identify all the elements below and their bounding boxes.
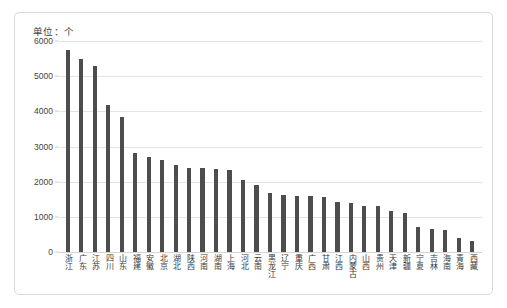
x-label-slot: 北京 [155, 254, 168, 308]
bar [457, 238, 461, 252]
bar-slot [74, 41, 87, 252]
x-label-slot: 甘肃 [317, 254, 330, 308]
bar-series [58, 41, 482, 252]
bar-slot [263, 41, 276, 252]
bar-slot [209, 41, 222, 252]
x-label-slot: 西藏 [466, 254, 479, 308]
bar [430, 229, 434, 252]
bar-slot [196, 41, 209, 252]
bar-slot [425, 41, 438, 252]
bar-slot [101, 41, 114, 252]
bar [376, 206, 380, 252]
bar [349, 203, 353, 252]
bar [335, 202, 339, 252]
x-label-slot: 福建 [128, 254, 141, 308]
x-axis-label: 甘肃 [320, 254, 328, 270]
x-axis-label: 广西 [306, 254, 314, 270]
x-label-slot: 河北 [236, 254, 249, 308]
bar [79, 59, 83, 252]
bar-slot [412, 41, 425, 252]
y-tick-label: 5000 [34, 71, 53, 81]
bar [389, 211, 393, 252]
x-axis-label: 贵州 [374, 254, 382, 270]
x-label-slot: 四川 [101, 254, 114, 308]
bar [106, 105, 110, 252]
y-tick-label: 3000 [34, 142, 53, 152]
x-label-slot: 江西 [331, 254, 344, 308]
bar [187, 168, 191, 252]
x-axis-label: 云南 [252, 254, 260, 270]
bar [308, 196, 312, 252]
bar-slot [439, 41, 452, 252]
x-label-slot: 江苏 [88, 254, 101, 308]
bar-slot [331, 41, 344, 252]
bar-slot [358, 41, 371, 252]
x-label-slot: 湖北 [169, 254, 182, 308]
bar-slot [236, 41, 249, 252]
x-axis-label: 新疆 [401, 254, 409, 270]
x-label-slot: 山西 [358, 254, 371, 308]
x-axis-label: 吉林 [428, 254, 436, 270]
bar-slot [344, 41, 357, 252]
x-axis-label: 海南 [441, 254, 449, 270]
bar [174, 165, 178, 252]
bar [147, 157, 151, 252]
bar-slot [223, 41, 236, 252]
x-axis-label: 四川 [104, 254, 112, 270]
x-label-slot: 贵州 [371, 254, 384, 308]
bar [133, 153, 137, 252]
x-axis-label: 湖南 [212, 254, 220, 270]
bar [93, 66, 97, 252]
x-label-slot: 广西 [304, 254, 317, 308]
x-label-slot: 青海 [452, 254, 465, 308]
x-axis-label: 上海 [225, 254, 233, 270]
x-axis-labels: 浙江广东江苏四川山东福建安徽北京湖北陕西河南湖南上海河北云南黑龙江辽宁重庆广西甘… [58, 254, 482, 308]
x-axis-label: 山西 [360, 254, 368, 270]
y-tick-label: 6000 [34, 36, 53, 46]
bar [362, 206, 366, 252]
bar-slot [317, 41, 330, 252]
bar [322, 197, 326, 252]
x-axis-label: 黑龙江 [266, 254, 274, 279]
bar-slot [304, 41, 317, 252]
x-label-slot: 新疆 [398, 254, 411, 308]
x-label-slot: 安徽 [142, 254, 155, 308]
x-axis-label: 宁夏 [414, 254, 422, 270]
x-label-slot: 湖南 [209, 254, 222, 308]
bar [281, 195, 285, 252]
x-label-slot: 广东 [74, 254, 87, 308]
x-label-slot: 上海 [223, 254, 236, 308]
bar [200, 168, 204, 252]
plot-area: 0100020003000400050006000 [58, 41, 482, 252]
x-label-slot: 浙江 [61, 254, 74, 308]
bar [241, 180, 245, 252]
bar-slot [466, 41, 479, 252]
bar-slot [61, 41, 74, 252]
bar-slot [115, 41, 128, 252]
bar-slot [128, 41, 141, 252]
x-axis-label: 山东 [117, 254, 125, 270]
x-label-slot: 云南 [250, 254, 263, 308]
x-axis-label: 内蒙古 [347, 254, 355, 279]
x-axis-label: 青海 [455, 254, 463, 270]
x-label-slot: 重庆 [290, 254, 303, 308]
bar [403, 213, 407, 252]
y-tick-label: 4000 [34, 106, 53, 116]
bar [443, 230, 447, 252]
x-label-slot: 宁夏 [412, 254, 425, 308]
bar [214, 169, 218, 252]
bar-slot [371, 41, 384, 252]
bar-slot [385, 41, 398, 252]
x-label-slot: 河南 [196, 254, 209, 308]
y-tick-label: 0 [48, 247, 53, 257]
x-axis-label: 北京 [158, 254, 166, 270]
bar-slot [88, 41, 101, 252]
x-axis-label: 重庆 [293, 254, 301, 270]
x-axis-label: 安徽 [144, 254, 152, 270]
x-axis-label: 辽宁 [279, 254, 287, 270]
bar-slot [155, 41, 168, 252]
bar-slot [142, 41, 155, 252]
x-label-slot: 陕西 [182, 254, 195, 308]
bar [470, 241, 474, 252]
x-label-slot: 山东 [115, 254, 128, 308]
